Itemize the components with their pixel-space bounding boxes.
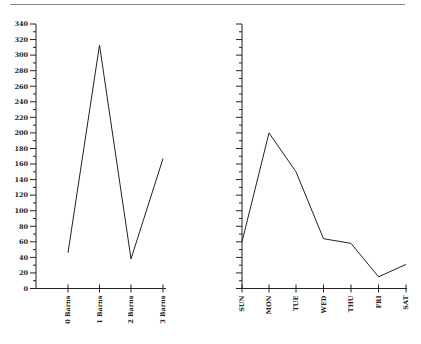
x-tick-label: TUE bbox=[292, 295, 300, 311]
x-tick-label: SUN bbox=[238, 295, 246, 311]
x-tick-label: 2 Barns bbox=[127, 295, 135, 324]
data-line bbox=[242, 133, 406, 277]
y-tick-label: 0 bbox=[23, 285, 28, 293]
y-tick-label: 220 bbox=[14, 114, 28, 122]
y-tick-label: 200 bbox=[14, 129, 28, 137]
data-line bbox=[68, 45, 163, 259]
y-tick-label: 340 bbox=[14, 20, 28, 28]
y-tick-label: 40 bbox=[19, 254, 29, 262]
x-tick-label: THU bbox=[347, 295, 355, 312]
y-tick-label: 120 bbox=[14, 191, 28, 199]
y-tick-label: 140 bbox=[14, 176, 28, 184]
barns-line-chart: 0204060801001201401601802002202402602803… bbox=[14, 20, 167, 324]
y-tick-label: 300 bbox=[14, 51, 28, 59]
chart-canvas: 0204060801001201401601802002202402602803… bbox=[0, 0, 421, 344]
y-tick-label: 80 bbox=[19, 223, 29, 231]
x-tick-label: SAT bbox=[402, 295, 410, 309]
x-tick-label: 0 Barns bbox=[64, 295, 72, 324]
x-tick-label: WED bbox=[320, 295, 328, 314]
x-tick-label: 3 Barns bbox=[159, 295, 167, 324]
y-tick-label: 180 bbox=[14, 145, 28, 153]
y-tick-label: 160 bbox=[14, 160, 28, 168]
y-tick-label: 240 bbox=[14, 98, 28, 106]
y-tick-label: 60 bbox=[19, 238, 29, 246]
y-tick-label: 260 bbox=[14, 83, 28, 91]
x-tick-label: MON bbox=[265, 295, 273, 314]
x-tick-label: FRI bbox=[375, 296, 383, 309]
y-tick-label: 20 bbox=[19, 269, 29, 277]
y-tick-label: 280 bbox=[14, 67, 28, 75]
weekday-line-chart: SUNMONTUEWEDTHUFRISAT bbox=[236, 24, 410, 314]
x-tick-label: 1 Barns bbox=[96, 295, 104, 324]
y-tick-label: 320 bbox=[14, 36, 28, 44]
y-tick-label: 100 bbox=[14, 207, 28, 215]
